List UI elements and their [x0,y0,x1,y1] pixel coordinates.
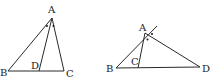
point-label-d: D [202,63,210,74]
angle-mark-dot [151,33,153,35]
angle-mark-dot [147,39,149,41]
point-label-c: C [66,68,74,79]
point-label-a: A [47,4,56,15]
segment-bd [116,67,200,68]
point-label-b: B [106,63,113,74]
point-label-d: D [31,60,39,71]
point-label-b: B [0,67,7,78]
geometry-diagram: A B C D A B C D [0,0,212,79]
angle-mark-dot [46,25,48,27]
point-label-c: C [131,56,139,67]
point-label-a: A [138,22,147,33]
angle-mark-dot [53,25,55,27]
right-triangle-figure: A B C D [106,22,210,74]
segment-ad [145,33,200,67]
segment-ac [138,33,145,68]
left-triangle-figure: A B C D [0,4,74,79]
